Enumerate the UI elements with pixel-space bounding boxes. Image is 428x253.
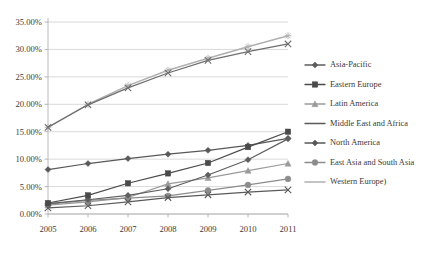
- data-point-marker: [312, 160, 318, 166]
- series-north-america: [45, 135, 291, 172]
- legend-item-asia-pacific[interactable]: Asia-Pacific: [305, 60, 372, 69]
- y-axis-tick-labels: 0.00%5.00%10.00%15.00%20.00%25.00%30.00%…: [16, 17, 43, 219]
- data-point-marker: [312, 82, 317, 87]
- data-point-marker: [165, 171, 170, 176]
- legend-label: Western Europe): [330, 177, 387, 186]
- x-tick-label: 2005: [39, 224, 56, 234]
- legend-item-east-asia-and-south-asia[interactable]: East Asia and South Asia: [305, 158, 414, 167]
- data-point-marker: [285, 176, 291, 182]
- data-point-marker: [205, 160, 210, 165]
- x-tick-label: 2008: [159, 224, 176, 234]
- x-tick-label: 2011: [280, 224, 297, 234]
- series-north-america-upper-track: [45, 41, 291, 131]
- data-point-marker: [245, 157, 251, 163]
- data-point-marker: [285, 129, 290, 134]
- y-tick-label: 15.00%: [16, 127, 43, 137]
- legend-label: Asia-Pacific: [330, 60, 372, 69]
- series-western-europe: [45, 32, 292, 130]
- data-series: [45, 32, 292, 211]
- chart-canvas: 0.00%5.00%10.00%15.00%20.00%25.00%30.00%…: [0, 0, 428, 253]
- data-point-marker: [285, 136, 291, 142]
- data-point-marker: [245, 182, 251, 188]
- data-point-marker: [245, 144, 250, 149]
- data-point-marker: [125, 181, 130, 186]
- y-tick-label: 0.00%: [20, 209, 42, 219]
- data-point-marker: [125, 156, 131, 162]
- legend-item-eastern-europe[interactable]: Eastern Europe: [305, 80, 382, 89]
- x-tick-label: 2007: [119, 224, 137, 234]
- data-point-marker: [85, 161, 91, 167]
- y-tick-label: 20.00%: [16, 99, 43, 109]
- data-point-marker: [312, 140, 318, 146]
- chart-legend: Asia-PacificEastern EuropeLatin AmericaM…: [305, 60, 414, 186]
- data-point-marker: [285, 32, 292, 39]
- legend-label: Eastern Europe: [330, 80, 382, 89]
- data-point-marker: [45, 167, 51, 173]
- data-point-marker: [45, 200, 50, 205]
- y-tick-label: 30.00%: [16, 44, 43, 54]
- legend-label: North America: [330, 138, 380, 147]
- data-point-marker: [165, 151, 171, 157]
- x-tick-label: 2009: [199, 224, 216, 234]
- legend-item-western-europe[interactable]: Western Europe): [305, 177, 387, 186]
- y-tick-label: 10.00%: [16, 154, 43, 164]
- legend-label: East Asia and South Asia: [330, 158, 414, 167]
- line-chart: 0.00%5.00%10.00%15.00%20.00%25.00%30.00%…: [0, 0, 428, 253]
- data-point-marker: [205, 147, 211, 153]
- legend-label: Middle East and Africa: [330, 119, 408, 128]
- y-tick-label: 25.00%: [16, 72, 43, 82]
- x-axis-tick-labels: 2005200620072008200920102011: [39, 224, 296, 234]
- series-line: [48, 44, 288, 127]
- x-tick-label: 2010: [239, 224, 256, 234]
- y-tick-label: 5.00%: [20, 182, 42, 192]
- legend-item-north-america[interactable]: North America: [305, 138, 380, 147]
- legend-item-middle-east-and-africa[interactable]: Middle East and Africa: [305, 119, 408, 128]
- y-tick-label: 35.00%: [16, 17, 43, 27]
- legend-label: Latin America: [330, 99, 378, 108]
- legend-item-latin-america[interactable]: Latin America: [305, 99, 378, 108]
- data-point-marker: [285, 160, 291, 166]
- data-point-marker: [85, 193, 90, 198]
- data-point-marker: [312, 62, 318, 68]
- x-tick-label: 2006: [79, 224, 97, 234]
